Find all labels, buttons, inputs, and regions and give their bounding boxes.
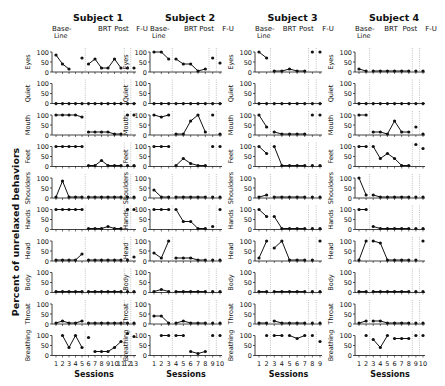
- y-tick-label: 50: [41, 185, 49, 193]
- row-hands: Hands100500: [327, 206, 425, 235]
- data-point: [311, 164, 314, 167]
- data-point: [414, 334, 417, 337]
- phase-label-baseline-line: Line: [54, 32, 68, 40]
- data-point: [100, 258, 103, 261]
- data-point: [400, 69, 403, 72]
- row-mouth: Mouth100500: [227, 111, 322, 140]
- data-point: [113, 290, 116, 293]
- phase-label-fu: F-U: [222, 25, 234, 33]
- y-tick-label: 50: [139, 90, 147, 98]
- y-tick-label: 100: [340, 206, 352, 214]
- data-point: [106, 102, 109, 105]
- data-point: [318, 195, 321, 198]
- data-point: [318, 239, 321, 242]
- data-point: [196, 113, 199, 116]
- data-point: [311, 334, 314, 337]
- y-tick-label: 0: [348, 100, 352, 108]
- x-tick-label: 8: [407, 360, 411, 368]
- data-point: [80, 115, 83, 118]
- y-tick-label: 100: [135, 112, 147, 120]
- y-tick-label: 0: [143, 226, 147, 234]
- row-label: Eyes: [122, 54, 130, 70]
- data-point: [93, 258, 96, 261]
- data-point: [357, 321, 360, 324]
- data-point: [421, 195, 424, 198]
- phase-label-fu: F-U: [136, 25, 148, 33]
- row-feet: Feet100500: [227, 143, 322, 172]
- row-shoulders: Shoulders100500: [24, 171, 136, 204]
- data-point: [421, 227, 424, 230]
- data-point: [93, 130, 96, 133]
- y-tick-label: 0: [143, 132, 147, 140]
- data-point: [393, 102, 396, 105]
- y-axis-label: Percent of unrelaxed behaviors: [10, 147, 21, 316]
- data-point: [160, 334, 163, 337]
- y-tick-label: 50: [344, 153, 352, 161]
- y-tick-label: 0: [45, 258, 49, 266]
- y-tick-label: 100: [340, 269, 352, 277]
- data-point: [257, 290, 260, 293]
- y-tick-label: 0: [348, 69, 352, 77]
- data-point: [93, 227, 96, 230]
- data-point: [288, 258, 291, 261]
- y-tick-label: 0: [143, 258, 147, 266]
- data-point: [218, 290, 221, 293]
- data-point: [365, 208, 368, 211]
- data-point: [152, 113, 155, 116]
- data-point: [273, 290, 276, 293]
- row-label: Mouth: [227, 115, 235, 135]
- data-point: [265, 290, 268, 293]
- y-tick-label: 50: [344, 216, 352, 224]
- data-point: [393, 227, 396, 230]
- y-tick-label: 0: [143, 100, 147, 108]
- data-point: [67, 258, 70, 261]
- y-tick-label: 100: [37, 206, 49, 214]
- data-point: [93, 57, 96, 60]
- data-line: [373, 336, 387, 348]
- row-label: Mouth: [24, 115, 32, 135]
- data-point: [80, 56, 83, 59]
- data-point: [189, 162, 192, 165]
- data-point: [280, 195, 283, 198]
- data-point: [182, 102, 185, 105]
- y-tick-label: 50: [139, 311, 147, 319]
- row-label: Throat: [227, 303, 235, 326]
- data-point: [414, 102, 417, 105]
- data-point: [379, 157, 382, 160]
- y-tick-label: 100: [340, 143, 352, 151]
- subject-panel-3: Subject 3Base-LineBRTPostF-UEyes100500Qu…: [227, 12, 334, 379]
- x-tick-label: 2: [159, 360, 163, 368]
- data-point: [54, 113, 57, 116]
- row-label: Shoulders: [327, 171, 335, 204]
- data-point: [160, 256, 163, 259]
- x-tick-label: 9: [318, 360, 322, 368]
- y-tick-label: 0: [143, 321, 147, 329]
- data-point: [113, 227, 116, 230]
- y-tick-label: 50: [139, 122, 147, 130]
- y-tick-label: 0: [143, 289, 147, 297]
- x-tick-label: 7: [400, 360, 404, 368]
- data-point: [87, 321, 90, 324]
- data-point: [273, 69, 276, 72]
- row-head: Head100500: [122, 237, 222, 266]
- row-eyes: Eyes100500: [24, 48, 136, 77]
- data-point: [204, 130, 207, 133]
- data-point: [106, 321, 109, 324]
- data-point: [372, 319, 375, 322]
- y-tick-label: 100: [135, 238, 147, 246]
- x-tick-label: 1: [357, 360, 361, 368]
- data-point: [204, 227, 207, 230]
- data-point: [288, 321, 291, 324]
- x-tick-label: 1: [152, 360, 156, 368]
- row-quiet: Quiet100500: [24, 80, 136, 109]
- data-point: [61, 258, 64, 261]
- data-point: [365, 193, 368, 196]
- data-line: [176, 115, 205, 134]
- data-point: [296, 227, 299, 230]
- row-label: Feet: [227, 149, 235, 163]
- data-point: [296, 290, 299, 293]
- data-point: [211, 195, 214, 198]
- data-point: [386, 152, 389, 155]
- data-point: [357, 208, 360, 211]
- data-point: [288, 102, 291, 105]
